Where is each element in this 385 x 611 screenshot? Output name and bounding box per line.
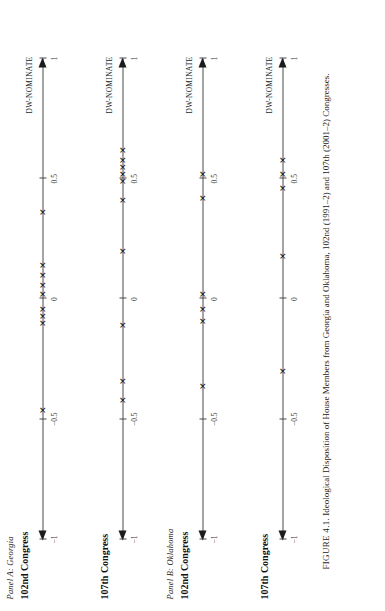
data-point-marker: ✕ [37,208,48,216]
axis-tick-label: 0 [49,297,58,301]
axis-tick [279,57,286,58]
data-point-marker: ✕ [37,290,48,298]
data-point-marker: ✕ [197,381,208,389]
figure-caption-text: Ideological Disposition of House Members… [320,73,330,518]
data-point-marker: ✕ [117,145,128,153]
axis-tick-label: 0.5 [289,174,298,183]
data-point-marker: ✕ [117,155,128,163]
axis-name-dw-nominate: DW-NOMINATE [264,56,273,113]
data-point-marker: ✕ [37,270,48,278]
axis-tick-label: 0 [129,297,138,301]
axis-tick-label: −1 [209,535,218,543]
axis-tick-label: −0.5 [49,412,58,426]
axis-arrow-right-icon [278,57,286,67]
axis-title-georgia-102nd: 102nd Congress [18,531,29,599]
axis-tick-label: 0.5 [209,174,218,183]
axis-oklahoma-102nd: 102nd Congress DW-NOMINATE −1−0.500.51 ✕… [202,58,226,539]
axis-tick [199,57,206,58]
axis-tick [39,418,46,419]
axis-tick [119,418,126,419]
axis-tick [39,57,46,58]
data-point-marker: ✕ [37,405,48,413]
data-point-marker: ✕ [117,246,128,254]
axis-tick [199,538,206,539]
axis-tick-label: 1 [289,56,298,60]
axis-tick [279,298,286,299]
figure-number: FIGURE 4.1. [320,517,330,569]
axis-tick-label: 0.5 [129,174,138,183]
axis-arrow-right-icon [38,57,46,67]
axis-tick-label: 1 [49,56,58,60]
axis-arrow-right-icon [118,57,126,67]
data-point-marker: ✕ [277,184,288,192]
axis-title-oklahoma-107th: 107th Congress [258,533,269,599]
axis-tick-label: −0.5 [209,412,218,426]
axis-title-oklahoma-102nd: 102nd Congress [178,531,189,599]
axis-tick-label: −1 [289,535,298,543]
axis-tick-label: 0 [209,297,218,301]
axis-oklahoma-107th: 107th Congress DW-NOMINATE −1−0.500.51 ✕… [282,58,306,539]
axis-tick [119,538,126,539]
data-point-marker: ✕ [37,261,48,269]
data-point-marker: ✕ [117,196,128,204]
figure-stage: Panel A: Georgia 102nd Congress DW-NOMIN… [0,0,385,611]
axis-tick [279,538,286,539]
panel-label-georgia: Panel A: Georgia [4,536,14,599]
data-point-marker: ✕ [197,194,208,202]
panel-georgia: Panel A: Georgia 102nd Congress DW-NOMIN… [0,0,160,611]
data-point-marker: ✕ [277,251,288,259]
axis-georgia-102nd: 102nd Congress DW-NOMINATE −1−0.500.51 ✕… [42,58,66,539]
axis-tick-label: 1 [209,56,218,60]
figure-caption: FIGURE 4.1. Ideological Disposition of H… [318,13,332,569]
axis-tick [119,57,126,58]
data-point-marker: ✕ [117,321,128,329]
axis-tick [279,418,286,419]
data-point-marker: ✕ [117,376,128,384]
axis-name-dw-nominate: DW-NOMINATE [104,56,113,113]
axis-title-georgia-107th: 107th Congress [98,533,109,599]
data-point-marker: ✕ [197,316,208,324]
axis-tick-label: 0.5 [49,174,58,183]
axis-tick [39,177,46,178]
axis-tick-label: 1 [129,56,138,60]
data-point-marker: ✕ [117,396,128,404]
axis-arrow-right-icon [198,57,206,67]
panel-label-oklahoma: Panel B: Oklahoma [164,528,174,599]
axis-tick [199,418,206,419]
axis-tick-label: −0.5 [289,412,298,426]
axis-tick-label: 0 [289,297,298,301]
axis-tick-label: −1 [49,535,58,543]
data-point-marker: ✕ [197,304,208,312]
data-point-marker: ✕ [277,155,288,163]
data-point-marker: ✕ [277,169,288,177]
axis-tick-label: −1 [129,535,138,543]
data-point-marker: ✕ [37,280,48,288]
data-point-marker: ✕ [197,169,208,177]
data-point-marker: ✕ [37,304,48,312]
axis-tick [119,298,126,299]
panel-oklahoma: Panel B: Oklahoma 102nd Congress DW-NOMI… [160,0,320,611]
data-point-marker: ✕ [197,290,208,298]
data-point-marker: ✕ [277,367,288,375]
axis-georgia-107th: 107th Congress DW-NOMINATE −1−0.500.51 ✕… [122,58,146,539]
axis-name-dw-nominate: DW-NOMINATE [24,56,33,113]
axis-tick-label: −0.5 [129,412,138,426]
axis-tick [39,538,46,539]
axis-name-dw-nominate: DW-NOMINATE [184,56,193,113]
